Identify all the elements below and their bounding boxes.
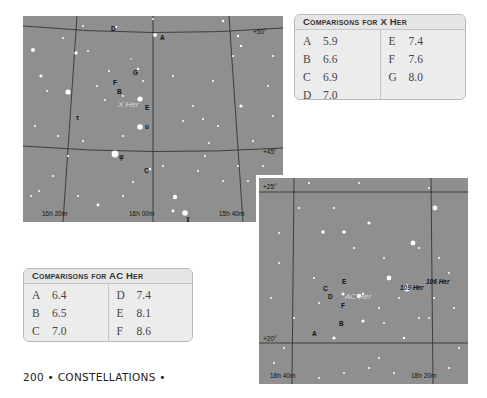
- star-marker: [153, 33, 157, 37]
- table-row: F8.6: [117, 322, 193, 340]
- dec-label-50: +50°: [253, 28, 267, 35]
- star-marker: [52, 175, 54, 177]
- comp-label-c: C: [144, 167, 149, 174]
- star-marker: [383, 322, 385, 324]
- star-marker: [270, 297, 272, 299]
- star-marker: [82, 25, 84, 27]
- star-marker: [182, 120, 184, 122]
- greek-label-chi: χ: [186, 215, 190, 222]
- star-marker: [383, 257, 385, 259]
- star-magnitude: 6.9: [323, 71, 337, 83]
- star-marker: [237, 35, 239, 37]
- star-magnitude: 7.4: [409, 35, 423, 47]
- x-her-comparison-table: Comparisons for X Her A5.9 B6.6 C6.9 D7.…: [294, 14, 466, 100]
- star-id: D: [117, 286, 137, 304]
- star-magnitude: 6.5: [52, 307, 66, 319]
- star-marker: [262, 165, 264, 167]
- x-her-star-chart: D A G F B E C X Her τ υ φ χ +50° +45° 16…: [23, 16, 283, 222]
- comp-label-f: F: [113, 79, 117, 86]
- dec-label-25: +25°: [263, 183, 277, 190]
- star-magnitude: 8.1: [137, 307, 151, 319]
- comp-label-a: A: [160, 34, 165, 41]
- star-marker: [353, 247, 355, 249]
- star-marker: [122, 95, 124, 97]
- star-marker: [252, 140, 254, 142]
- star-magnitude: 6.6: [323, 53, 337, 65]
- ra-label-1620: 16h 20m: [42, 210, 67, 217]
- star-marker: [278, 232, 280, 234]
- ra-label-1820: 18h 20m: [411, 372, 436, 379]
- star-name-106-her: 106 Her: [426, 278, 450, 285]
- star-marker: [149, 168, 151, 170]
- star-marker: [433, 206, 438, 211]
- star-marker: [30, 195, 32, 197]
- ac-her-table-title: Comparisons for AC Her: [24, 269, 192, 284]
- greek-label-phi: φ: [119, 153, 124, 161]
- star-marker: [132, 181, 134, 183]
- table-row: C7.0: [32, 322, 108, 340]
- star-marker: [332, 336, 335, 339]
- star-marker: [433, 297, 435, 299]
- star-marker: [278, 262, 280, 264]
- ra-line-1840: [292, 178, 294, 384]
- star-marker: [342, 230, 346, 234]
- comp-label-d: D: [111, 25, 116, 32]
- table-row: B6.6: [303, 50, 380, 68]
- star-magnitude: 8.6: [137, 325, 151, 337]
- x-her-stars: [30, 18, 274, 216]
- star-marker: [308, 182, 310, 184]
- star-marker: [438, 257, 440, 259]
- star-marker: [67, 155, 69, 157]
- star-marker: [208, 142, 210, 144]
- star-marker: [222, 180, 224, 182]
- x-her-table-left-column: A5.9 B6.6 C6.9 D7.0: [295, 30, 380, 99]
- star-marker: [57, 135, 59, 137]
- star-id: F: [117, 322, 137, 340]
- comp-label-b: B: [339, 320, 344, 327]
- star-id: E: [117, 304, 137, 322]
- star-id: E: [389, 32, 409, 50]
- star-marker: [403, 337, 405, 339]
- dec-label-20: +20°: [263, 335, 277, 342]
- table-row: C6.9: [303, 68, 380, 86]
- star-marker: [393, 372, 395, 374]
- star-marker: [343, 372, 345, 374]
- star-marker: [321, 230, 325, 234]
- table-row: E8.1: [117, 304, 193, 322]
- star-magnitude: 7.0: [52, 325, 66, 337]
- x-her-chart-svg: D A G F B E C X Her τ υ φ χ +50° +45° 16…: [23, 16, 283, 222]
- star-marker: [172, 210, 175, 213]
- star-marker: [361, 319, 364, 322]
- star-marker: [172, 75, 174, 77]
- star-marker: [87, 50, 89, 52]
- star-marker: [162, 165, 164, 167]
- section-title: • CONSTELLATIONS •: [48, 371, 166, 383]
- star-marker: [237, 165, 239, 167]
- star-marker: [108, 70, 110, 72]
- table-row: D7.0: [303, 86, 380, 100]
- star-marker: [240, 45, 242, 47]
- star-marker: [333, 207, 335, 209]
- comp-label-c: C: [323, 285, 328, 292]
- star-magnitude: 6.4: [52, 289, 66, 301]
- greek-label-tau: τ: [76, 114, 79, 121]
- comp-label-a: A: [312, 330, 317, 337]
- star-marker: [387, 276, 392, 281]
- star-id: A: [303, 32, 323, 50]
- star-marker: [458, 347, 460, 349]
- star-marker: [137, 124, 143, 130]
- star-marker: [318, 377, 320, 379]
- ac-her-table-right-column: D7.4 E8.1 F8.6: [108, 284, 193, 341]
- star-marker: [272, 55, 274, 57]
- star-marker: [267, 85, 269, 87]
- star-marker: [62, 37, 64, 39]
- comp-label-g: G: [133, 69, 138, 76]
- star-marker: [34, 125, 36, 127]
- star-marker: [212, 80, 214, 82]
- star-marker: [411, 241, 416, 246]
- ra-label-1840: 18h 40m: [270, 372, 295, 379]
- star-id: C: [32, 322, 52, 340]
- star-id: A: [32, 286, 52, 304]
- page-footer: 200 • CONSTELLATIONS •: [23, 371, 166, 383]
- comp-label-b: B: [117, 88, 122, 95]
